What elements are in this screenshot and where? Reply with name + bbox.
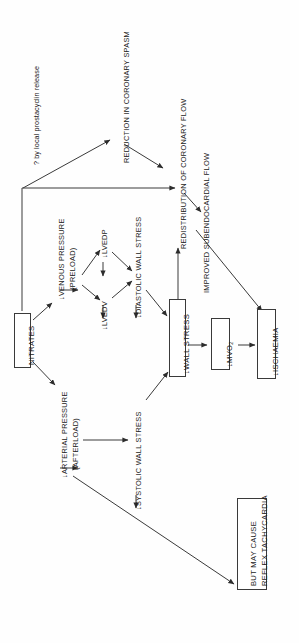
edge-venous-lvedp bbox=[82, 250, 100, 275]
node-reflex-tachycardia-line1: BUT MAY CAUSE bbox=[249, 521, 259, 586]
node-mvo2[interactable]: ↓MVO2 bbox=[211, 318, 230, 370]
node-nitrates[interactable]: NITRATES bbox=[14, 313, 31, 368]
node-venous-pressure-sublabel: (PRELOAD) bbox=[68, 248, 77, 291]
node-lvedv-label: ↓LVEDV bbox=[100, 301, 109, 330]
edge-systolic-wallstress bbox=[146, 372, 168, 400]
node-systolic-wall-stress-label: ↓SYSTOLIC WALL STRESS bbox=[134, 411, 143, 510]
node-nitrates-label: NITRATES bbox=[27, 326, 37, 365]
node-arterial-pressure-sublabel: (AFTERLOAD) bbox=[71, 418, 80, 470]
annotation-prostacyclin-line2: release bbox=[32, 66, 41, 90]
edge-lvedv-diastolic bbox=[112, 281, 132, 298]
node-subendocardial-flow-label: IMPROVED SUBENDOCARDIAL FLOW bbox=[202, 153, 211, 293]
edge-nitrates-arterial bbox=[33, 362, 55, 385]
node-venous-pressure-label: ↓VENOUS PRESSURE bbox=[57, 218, 66, 300]
node-reflex-tachycardia[interactable]: BUT MAY CAUSE REFLEX TACHYCARDIA bbox=[237, 498, 267, 590]
node-ischaemia-label: ↓ISCHAEMIA bbox=[271, 327, 281, 376]
node-wall-stress[interactable]: ↓WALL STRESS bbox=[169, 299, 186, 377]
node-lvedp-label: ↓LVEDP bbox=[100, 229, 109, 258]
node-mvo2-label: ↓MVO2 bbox=[225, 342, 236, 367]
edge-nitrates-coronaryflow bbox=[22, 188, 175, 311]
node-arterial-pressure-label: ↓ARTERIAL PRESSURE bbox=[60, 391, 69, 478]
node-reflex-tachycardia-line2: REFLEX TACHYCARDIA bbox=[260, 495, 270, 586]
annotation-prostacyclin: ? by local prostacyclin release bbox=[32, 66, 41, 165]
edge-arterial-tachycardia bbox=[73, 476, 234, 584]
edge-lvedp-diastolic bbox=[112, 252, 132, 271]
node-diastolic-wall-stress-label: ↓DIASTOLIC WALL STRESS bbox=[134, 217, 143, 318]
diagram-canvas: ? by local prostacyclin release NITRATES… bbox=[0, 0, 299, 643]
edge-venous-lvedv bbox=[82, 285, 100, 300]
node-wall-stress-label: ↓WALL STRESS bbox=[182, 314, 192, 374]
edge-diastolic-wallstress bbox=[146, 290, 167, 316]
node-ischaemia[interactable]: ↓ISCHAEMIA bbox=[257, 309, 276, 379]
node-coronary-spasm-label: REDUCTION IN CORONARY SPASM bbox=[122, 31, 131, 163]
node-coronary-flow-label: REDISTRIBUTION OF CORONARY FLOW bbox=[179, 99, 188, 249]
annotation-prostacyclin-line1: ? by local prostacyclin bbox=[32, 92, 41, 165]
edge-nitrates-venous bbox=[33, 303, 52, 320]
